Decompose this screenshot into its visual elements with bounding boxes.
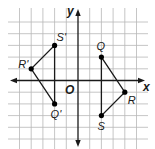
vertex-label: S	[97, 120, 105, 132]
x-axis-left-arrow-icon	[10, 78, 17, 83]
vertex-label: S'	[57, 31, 67, 43]
vertex-point	[29, 66, 34, 71]
vertex-label: R'	[18, 58, 29, 70]
vertex-point	[122, 90, 127, 95]
vertex-point	[52, 43, 57, 48]
vertex-point	[99, 113, 104, 118]
vertex-point	[99, 55, 104, 60]
vertex-label: Q'	[51, 108, 63, 120]
coordinate-plane: x y O QRSQ'R'S'	[0, 0, 155, 149]
figure-qrs: QRS	[96, 40, 135, 132]
figures: QRSQ'R'S'	[18, 31, 136, 131]
vertex-point	[52, 101, 57, 106]
vertex-label: R	[128, 94, 136, 106]
x-axis-label: x	[142, 80, 151, 94]
origin-label: O	[65, 83, 75, 97]
vertex-label: Q	[96, 40, 105, 52]
y-axis-down-arrow-icon	[75, 140, 80, 147]
y-axis-label: y	[66, 4, 75, 18]
y-axis-up-arrow-icon	[75, 9, 80, 16]
